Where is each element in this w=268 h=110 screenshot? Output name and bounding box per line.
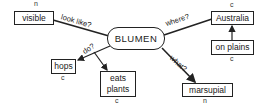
node-australia: Australia [211,11,254,25]
node-marsupial: marsupial [182,83,233,97]
center-node-blumen: BLUMEN [107,27,165,50]
node-eats-plants-label: eats plants [101,73,135,95]
node-marsupial-label: marsupial [189,85,226,96]
node-on-plains-label: on plains [215,42,249,53]
node-visible-label: visible [22,13,46,24]
node-visible-tag: n [34,0,38,7]
node-hops: hops [51,59,76,74]
node-hops-tag: c [61,74,65,81]
node-australia-tag: c [230,1,234,8]
node-australia-label: Australia [216,13,249,24]
node-eats-plants: eats plants [100,71,136,97]
node-marsupial-tag: n [203,97,207,104]
node-eats-plants-tag: c [115,97,119,104]
node-on-plains-tag: c [230,55,234,62]
node-on-plains: on plains [211,40,254,55]
node-visible: visible [14,11,54,25]
node-hops-label: hops [54,61,72,72]
center-node-label: BLUMEN [115,33,158,44]
